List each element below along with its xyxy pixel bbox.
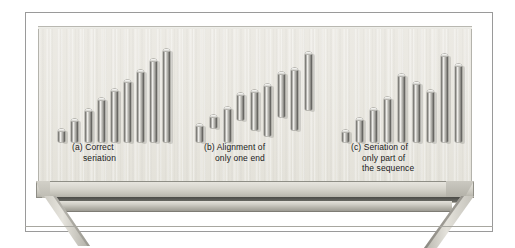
rod-b-1[interactable]: [196, 124, 203, 142]
rod-cap-icon: [342, 130, 349, 133]
rod-cap-icon: [455, 64, 462, 67]
rod-cap-icon: [224, 107, 231, 110]
rod-cap-icon: [251, 90, 258, 93]
rod-cap-icon: [137, 70, 144, 73]
rod-a-6[interactable]: [124, 80, 131, 142]
table-apron: [58, 201, 452, 212]
rod-a-9[interactable]: [163, 49, 170, 142]
rod-cap-icon: [356, 118, 363, 121]
rod-cap-icon: [264, 84, 271, 87]
rod-a-4[interactable]: [98, 98, 105, 142]
rod-b-2[interactable]: [210, 115, 217, 128]
caption-c-line1: (c) Seriation of: [351, 142, 408, 152]
rod-b-5[interactable]: [251, 90, 258, 130]
rod-c-4[interactable]: [384, 97, 391, 142]
caption-c-line2: only part of: [351, 153, 414, 164]
caption-a-line2: seriation: [72, 153, 116, 164]
rod-cap-icon: [58, 129, 65, 132]
rod-cap-icon: [305, 52, 312, 55]
rod-c-3[interactable]: [370, 108, 377, 142]
floor-line: [25, 226, 493, 227]
caption-a-line1: (a) Correct: [72, 142, 114, 152]
rod-cap-icon: [413, 82, 420, 85]
rod-b-4[interactable]: [237, 93, 244, 120]
rod-a-5[interactable]: [111, 89, 118, 142]
rod-c-8[interactable]: [441, 54, 448, 142]
caption-b: (b) Alignment ofonly one end: [204, 142, 265, 163]
rod-c-9[interactable]: [455, 64, 462, 142]
rod-c-2[interactable]: [356, 118, 363, 142]
caption-c: (c) Seriation ofonly part ofthe sequence: [351, 142, 414, 174]
rod-c-1[interactable]: [342, 130, 349, 142]
rod-cap-icon: [124, 80, 131, 83]
rod-a-2[interactable]: [71, 119, 78, 142]
rod-b-3[interactable]: [224, 107, 231, 142]
rod-cap-icon: [111, 89, 118, 92]
caption-a: (a) Correctseriation: [72, 142, 116, 163]
rod-c-6[interactable]: [413, 82, 420, 142]
rod-cap-icon: [291, 68, 298, 71]
rod-cap-icon: [384, 97, 391, 100]
caption-c-line3: the sequence: [351, 163, 414, 174]
rod-cap-icon: [196, 124, 203, 127]
rod-c-5[interactable]: [398, 74, 405, 142]
rod-cap-icon: [427, 90, 434, 93]
rod-a-7[interactable]: [137, 70, 144, 142]
rod-group-a: [56, 30, 174, 150]
rod-cap-icon: [163, 49, 170, 52]
rod-a-8[interactable]: [150, 59, 157, 142]
rod-cap-icon: [370, 108, 377, 111]
rod-c-7[interactable]: [427, 90, 434, 142]
rod-a-1[interactable]: [58, 129, 65, 142]
board-front-edge: [36, 181, 474, 198]
rod-a-3[interactable]: [85, 109, 92, 142]
rod-cap-icon: [98, 98, 105, 101]
rod-cap-icon: [150, 59, 157, 62]
rod-group-b: [194, 30, 316, 150]
rod-cap-icon: [237, 93, 244, 96]
rod-cap-icon: [71, 119, 78, 122]
rod-cap-icon: [85, 109, 92, 112]
rod-cap-icon: [278, 72, 285, 75]
table-assembly: (a) Correctseriation(b) Alignment ofonly…: [36, 26, 482, 226]
rod-cap-icon: [210, 115, 217, 118]
rod-b-9[interactable]: [305, 52, 312, 110]
caption-b-line2: only one end: [204, 153, 265, 164]
rod-b-7[interactable]: [278, 72, 285, 117]
rod-group-c: [339, 30, 467, 150]
rod-cap-icon: [441, 54, 448, 57]
rod-cap-icon: [398, 74, 405, 77]
caption-b-line1: (b) Alignment of: [204, 142, 265, 152]
rod-b-8[interactable]: [291, 68, 298, 130]
rod-b-6[interactable]: [264, 84, 271, 136]
